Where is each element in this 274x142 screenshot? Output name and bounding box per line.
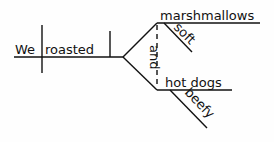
verb-word: roasted: [45, 42, 94, 57]
conjunction-word: and: [147, 45, 162, 69]
object-word-1: marshmallows: [160, 8, 254, 23]
subject-word: We: [15, 42, 35, 57]
sentence-diagram: We roasted marshmallows hot dogs soft be…: [0, 0, 274, 142]
